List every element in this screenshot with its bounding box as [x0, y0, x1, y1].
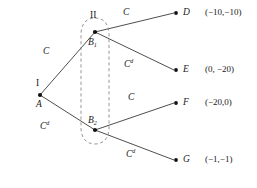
node-e-label: E — [183, 65, 189, 75]
node-b2-dot — [93, 128, 97, 132]
edge-a-to-b1 — [40, 32, 95, 95]
action-label-b2-to-g: Cd — [126, 150, 135, 160]
player-ii-label: II — [90, 11, 96, 21]
payoff-f: (−20,0) — [205, 98, 232, 107]
action-label-b1-to-e-sup: d — [130, 58, 133, 64]
node-b1-label: B1 — [88, 38, 97, 48]
action-label-b1-to-d: C — [123, 8, 129, 18]
node-a-label: A — [36, 100, 42, 110]
edge-b2-to-f — [95, 103, 174, 130]
player-i-label: I — [36, 79, 39, 89]
node-f-label: F — [183, 98, 189, 108]
payoff-d: (−10,−10) — [205, 8, 241, 17]
node-e-dot — [174, 68, 178, 72]
node-g-label: G — [183, 155, 190, 165]
node-d-dot — [174, 11, 178, 15]
node-g-dot — [174, 158, 178, 162]
action-label-b2-to-g-sup: d — [132, 148, 135, 154]
action-label-a-to-b2-sup: d — [46, 120, 49, 126]
payoff-e: (0, −20) — [205, 65, 234, 74]
node-b2-base: B — [88, 115, 94, 125]
node-b2-subscript: 2 — [94, 119, 97, 126]
action-label-a-to-b1: C — [43, 47, 49, 57]
edge-b1-to-e — [95, 32, 174, 70]
action-label-b2-to-f: C — [128, 93, 134, 103]
node-b1-dot — [93, 30, 97, 34]
action-label-b1-to-e: Cd — [124, 60, 133, 70]
node-b1-base: B — [88, 37, 94, 47]
payoff-g: (−1,−1) — [205, 155, 232, 164]
node-a-dot — [38, 93, 42, 97]
node-d-label: D — [183, 8, 190, 18]
action-label-a-to-b2: Cd — [40, 122, 49, 132]
node-b2-label: B2 — [88, 116, 97, 126]
game-tree-figure: I A II B1 B2 D E F G C Cd C Cd C Cd (−10… — [0, 0, 257, 188]
node-b1-subscript: 1 — [94, 41, 97, 48]
node-f-dot — [174, 101, 178, 105]
edge-b1-to-d — [95, 13, 174, 32]
